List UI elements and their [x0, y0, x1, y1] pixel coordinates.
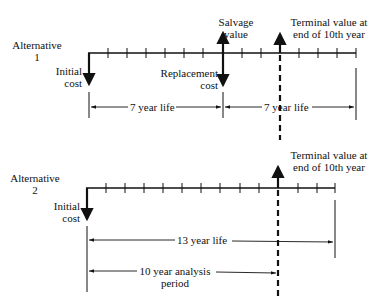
alt1-terminal-label: Terminal value at end of 10th year: [282, 16, 376, 40]
alt1-initial-cost-label: Initial cost: [40, 65, 82, 89]
alt1-timeline: [88, 33, 356, 140]
alt2-label: Alternative 2: [6, 172, 64, 196]
alt1-life1-label: 7 year life: [130, 101, 175, 113]
alt1-life2-label: 7 year life: [264, 101, 309, 113]
alt1-replacement-cost-label: Replacement cost: [140, 67, 218, 91]
alt1-salvage-label: Salvage value: [210, 16, 262, 40]
alt2-initial-cost-label: Initial cost: [38, 200, 80, 224]
alt2-life-label: 13 year life: [177, 234, 227, 246]
alt2-terminal-label: Terminal value at end of 10th year: [282, 149, 376, 173]
alt2-analysis-period-label: 10 year analysis period: [134, 265, 216, 289]
alt1-label: Alternative 1: [8, 39, 66, 63]
